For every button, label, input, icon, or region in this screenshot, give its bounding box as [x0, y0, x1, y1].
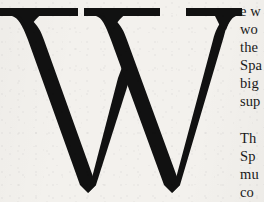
dropcap-stroke-3: [96, 14, 180, 193]
paragraph-2: Th Sp mu co: [240, 129, 264, 201]
text-line: Th: [240, 129, 264, 147]
text-line: sup: [240, 92, 264, 110]
text-line: co: [240, 183, 264, 201]
text-line: mu: [240, 165, 264, 183]
dropcap-W: [0, 0, 244, 202]
text-line: big: [240, 74, 264, 92]
text-line: the: [240, 38, 264, 56]
text-line: wo: [240, 20, 264, 38]
text-line: Sp: [240, 147, 264, 165]
paragraph-1: e w wo the Spa big sup: [240, 0, 264, 110]
text-line: e w: [240, 2, 264, 20]
dropcap-stroke-4: [172, 14, 236, 193]
text-line: Spa: [240, 56, 264, 74]
paragraph-gap: [240, 110, 264, 129]
scanned-page: e w wo the Spa big sup Th Sp mu co: [0, 0, 264, 202]
body-text-column: e w wo the Spa big sup Th Sp mu co: [240, 0, 264, 202]
dropcap-stroke-1: [12, 14, 96, 193]
dropcap-stroke-2: [88, 62, 130, 193]
